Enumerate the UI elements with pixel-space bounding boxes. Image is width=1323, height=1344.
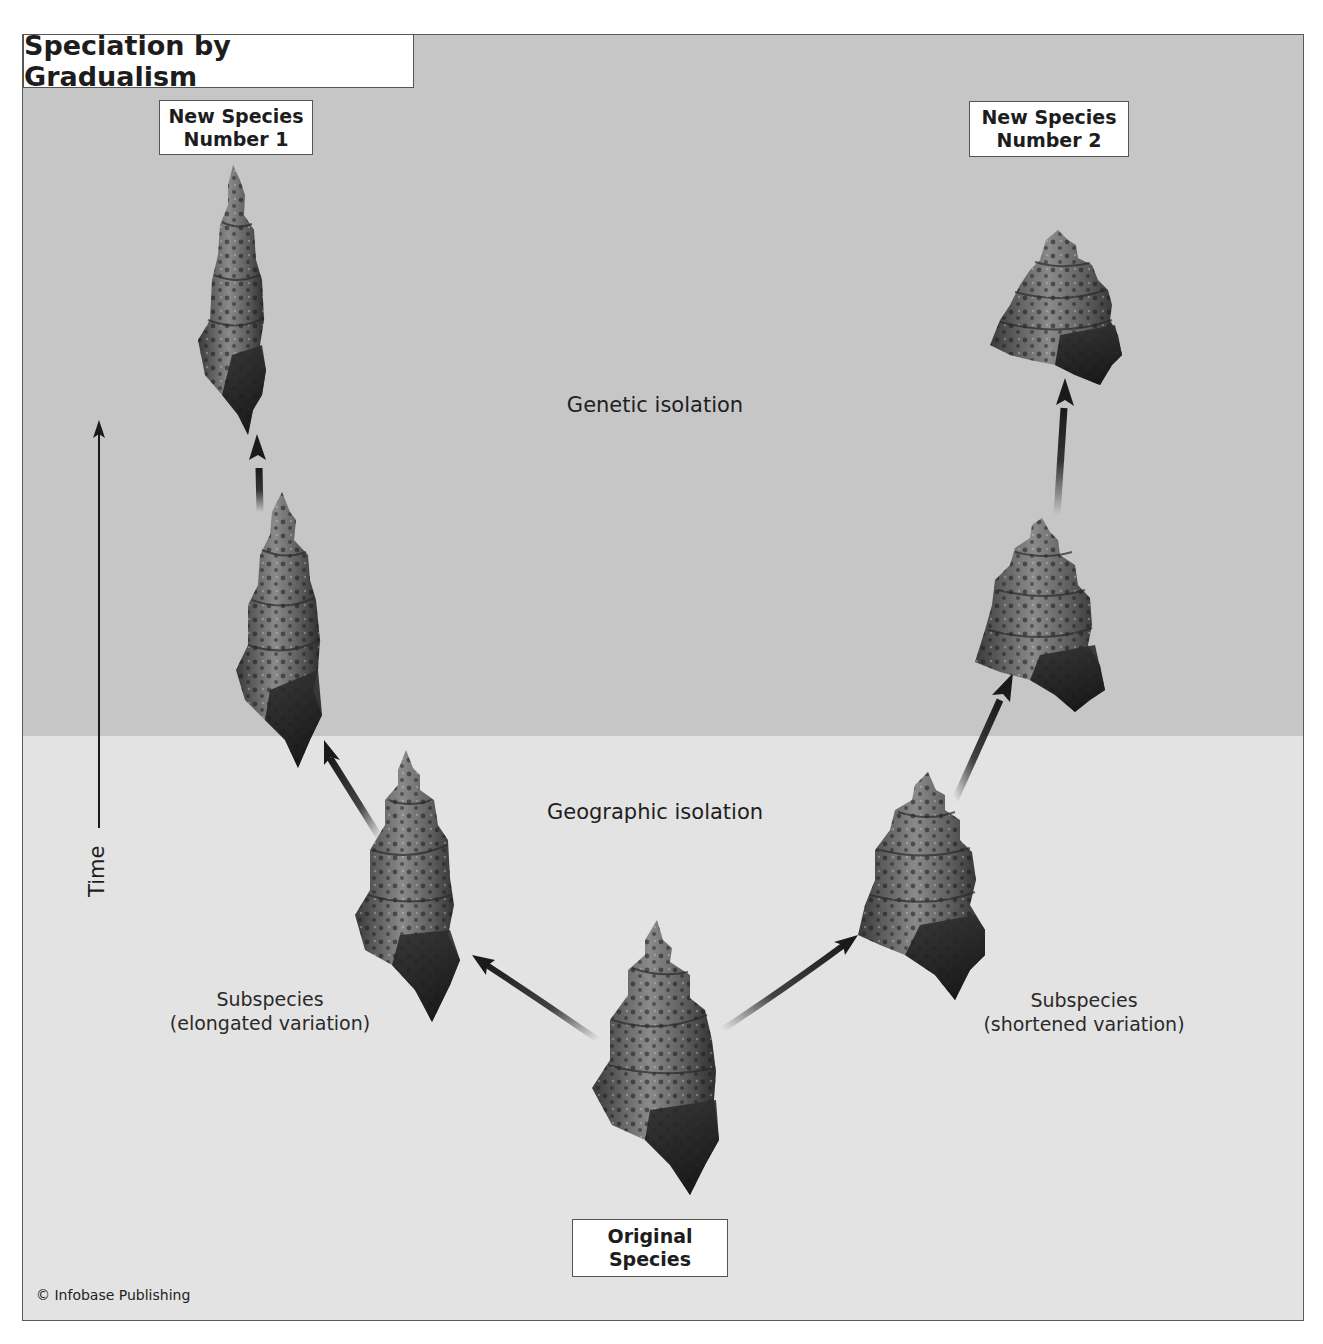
shell-subspecies-elongated bbox=[355, 750, 460, 1022]
time-axis-arrow bbox=[93, 420, 105, 828]
shell-new-species-2 bbox=[990, 230, 1122, 385]
diagram-title: Speciation by Gradualism bbox=[23, 34, 414, 88]
label-line: Subspecies bbox=[960, 988, 1208, 1012]
label-line: Subspecies bbox=[150, 987, 390, 1011]
label-line: New Species bbox=[160, 105, 312, 128]
label-line: New Species bbox=[970, 106, 1128, 129]
label-line: (elongated variation) bbox=[150, 1011, 390, 1035]
copyright-credit: © Infobase Publishing bbox=[36, 1287, 190, 1303]
shell-right-intermediate bbox=[975, 518, 1105, 712]
label-line: (shortened variation) bbox=[960, 1012, 1208, 1036]
label-line: Original bbox=[573, 1225, 727, 1248]
genetic-isolation-label: Genetic isolation bbox=[535, 393, 775, 418]
time-axis-label: Time bbox=[85, 847, 109, 897]
shell-and-arrow-layer bbox=[0, 0, 1323, 1344]
label-subspecies-elongated: Subspecies (elongated variation) bbox=[150, 987, 390, 1035]
label-subspecies-shortened: Subspecies (shortened variation) bbox=[960, 988, 1208, 1036]
shell-original-species bbox=[592, 920, 719, 1195]
geographic-isolation-label: Geographic isolation bbox=[510, 800, 800, 825]
label-new-species-1: New Species Number 1 bbox=[159, 100, 313, 155]
label-line: Number 2 bbox=[970, 129, 1128, 152]
label-original-species: Original Species bbox=[572, 1219, 728, 1277]
label-new-species-2: New Species Number 2 bbox=[969, 101, 1129, 157]
label-line: Species bbox=[573, 1248, 727, 1271]
shell-left-intermediate bbox=[236, 492, 322, 768]
shell-new-species-1 bbox=[198, 165, 266, 435]
label-line: Number 1 bbox=[160, 128, 312, 151]
shell-subspecies-shortened bbox=[858, 772, 985, 1000]
